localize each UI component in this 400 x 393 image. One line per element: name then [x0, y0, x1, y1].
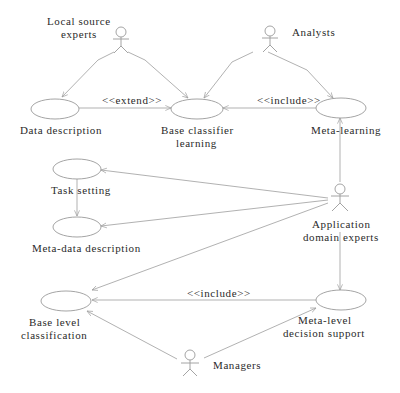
include-label-top: <<include>>: [257, 94, 321, 106]
use-case-label: Data description: [20, 124, 102, 136]
edge-analysts-to-base-classifier: [204, 52, 253, 98]
use-case-label: Task setting: [51, 184, 111, 196]
use-case-meta-data-description[interactable]: Meta-data description: [32, 217, 141, 254]
actor-label: Managers: [213, 359, 261, 371]
use-case-label: learning: [176, 137, 217, 149]
use-case-diagram: <<extend>> <<include>> <<include>> Data …: [0, 0, 400, 393]
stick-figure-icon: [113, 27, 129, 53]
use-case-label: decision support: [283, 327, 365, 339]
use-case-label: Meta-level: [298, 314, 352, 326]
actor-label: experts: [61, 28, 97, 40]
edge-app-experts-to-meta-data: [101, 200, 328, 226]
edge-local-experts-to-data-description: [62, 52, 114, 97]
use-case-task-setting[interactable]: Task setting: [51, 159, 111, 196]
actor-label: Application: [312, 218, 371, 230]
use-case-base-level-classification[interactable]: Base level classification: [21, 291, 91, 341]
use-case-label: Meta-learning: [311, 124, 381, 136]
actor-label: domain experts: [303, 231, 379, 243]
use-case-label: Meta-data description: [32, 242, 141, 254]
extend-label: <<extend>>: [102, 94, 162, 106]
edge-local-experts-to-base-classifier: [128, 52, 188, 98]
edge-app-experts-to-task-setting: [101, 170, 328, 198]
actor-local-source-experts[interactable]: Local source experts: [47, 15, 129, 53]
actor-label: Local source: [47, 15, 111, 27]
actor-application-domain-experts[interactable]: Application domain experts: [303, 184, 379, 243]
actor-label: Analysts: [292, 26, 335, 38]
stick-figure-icon: [331, 184, 349, 211]
edge-managers-to-base-level: [87, 311, 177, 359]
use-case-label: Base classifier: [161, 124, 234, 136]
actor-managers[interactable]: Managers: [181, 350, 261, 376]
stick-figure-icon: [262, 26, 278, 52]
edge-analysts-to-meta-learning: [268, 52, 333, 98]
use-case-data-description[interactable]: Data description: [20, 99, 102, 136]
use-case-meta-learning[interactable]: Meta-learning: [311, 98, 381, 136]
include-label-bottom: <<include>>: [187, 287, 251, 299]
stick-figure-icon: [181, 350, 199, 376]
use-case-base-classifier-learning[interactable]: Base classifier learning: [161, 99, 234, 149]
actor-analysts[interactable]: Analysts: [262, 26, 335, 52]
use-case-label: classification: [21, 329, 87, 341]
use-case-label: Base level: [29, 316, 81, 328]
use-case-meta-level-decision-support[interactable]: Meta-level decision support: [283, 290, 366, 339]
